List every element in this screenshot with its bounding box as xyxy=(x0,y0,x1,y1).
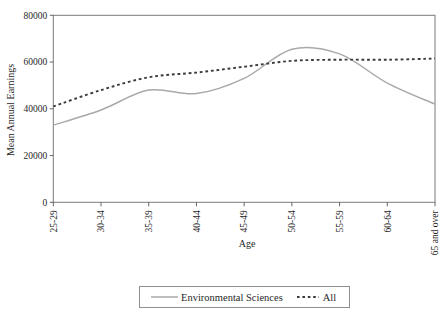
chart-page: 020000400006000080000 25-2930-3435-3940-… xyxy=(0,0,447,318)
x-tick-label: 55-59 xyxy=(335,210,345,232)
y-tick-label: 80000 xyxy=(24,11,48,21)
y-axis-tick-labels: 020000400006000080000 xyxy=(24,11,48,208)
y-axis-ticks xyxy=(50,15,54,202)
series-lines xyxy=(53,47,435,125)
env-sciences-line-sample-icon xyxy=(151,293,178,301)
x-tick-label: 25-29 xyxy=(49,210,59,232)
legend-label-all: All xyxy=(323,292,336,303)
x-axis-title: Age xyxy=(239,238,256,249)
y-axis-title: Mean Annual Earnings xyxy=(5,64,16,156)
x-tick-label: 40-44 xyxy=(192,210,202,232)
x-tick-label: 30-34 xyxy=(96,210,106,232)
earnings-by-age-line-chart: 020000400006000080000 25-2930-3435-3940-… xyxy=(0,0,447,318)
y-tick-label: 40000 xyxy=(24,104,48,114)
y-tick-label: 60000 xyxy=(24,57,48,67)
x-tick-label: 60-64 xyxy=(383,210,393,232)
x-tick-label: 45-49 xyxy=(239,210,249,232)
all-line-sample-icon xyxy=(297,293,319,301)
plot-area-border xyxy=(53,15,435,202)
x-tick-label: 50-54 xyxy=(287,210,297,232)
y-tick-label: 20000 xyxy=(24,151,48,161)
y-tick-label: 0 xyxy=(43,198,48,208)
x-tick-label: 35-39 xyxy=(144,210,154,232)
legend: Environmental Sciences All xyxy=(139,286,350,308)
x-tick-label: 65 and over xyxy=(430,209,440,255)
all-series-line xyxy=(53,59,435,107)
env-sciences-series-line xyxy=(53,47,435,125)
x-axis-ticks xyxy=(53,202,435,206)
legend-label-env-sciences: Environmental Sciences xyxy=(181,292,283,303)
